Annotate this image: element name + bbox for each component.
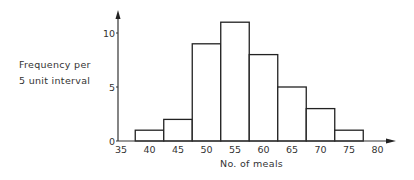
x-tick-label: 65	[286, 144, 298, 155]
histogram-bars	[135, 22, 363, 141]
x-ticks: 35404550556065707580	[115, 144, 384, 155]
y-axis-label: Frequency per 5 unit interval	[19, 57, 91, 89]
x-tick-label: 80	[371, 144, 383, 155]
y-tick-label: 5	[109, 82, 115, 93]
x-tick-label: 45	[172, 144, 184, 155]
histogram-bar	[335, 130, 364, 141]
y-axis-label-line-1: Frequency per	[19, 57, 91, 73]
x-axis-label: No. of meals	[220, 158, 283, 169]
y-axis-arrow-icon	[116, 10, 121, 19]
histogram-chart: 0510 35404550556065707580	[0, 0, 414, 180]
histogram-bar	[278, 87, 307, 141]
x-tick-label: 50	[200, 144, 212, 155]
histogram-bar	[221, 22, 250, 141]
histogram-bar	[249, 55, 278, 141]
x-tick-label: 40	[143, 144, 155, 155]
x-tick-label: 70	[314, 144, 326, 155]
histogram-bar	[135, 130, 164, 141]
x-tick-label: 60	[257, 144, 269, 155]
x-tick-label: 75	[343, 144, 355, 155]
histogram-bar	[192, 44, 221, 141]
x-axis-arrow-icon	[386, 139, 396, 144]
histogram-bar	[164, 119, 193, 141]
x-tick-label: 35	[115, 144, 127, 155]
y-axis-label-line-2: 5 unit interval	[19, 73, 91, 89]
x-tick-label: 55	[229, 144, 241, 155]
y-ticks: 0510	[103, 28, 118, 147]
histogram-bar	[306, 109, 335, 141]
y-tick-label: 10	[103, 28, 115, 39]
